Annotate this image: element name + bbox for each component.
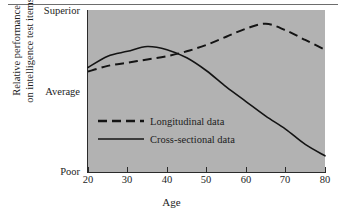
legend-label-longitudinal: Longitudinal data <box>150 116 224 127</box>
solid-line-icon <box>98 134 144 144</box>
curves-svg <box>0 0 343 221</box>
legend-item-cross-sectional: Cross-sectional data <box>98 130 235 148</box>
legend-item-longitudinal: Longitudinal data <box>98 112 235 130</box>
figure-container: Superior Average Poor 20 30 40 50 60 70 … <box>0 0 343 221</box>
series-line-longitudinal <box>88 24 325 72</box>
legend-label-cross-sectional: Cross-sectional data <box>150 134 235 145</box>
dashed-line-icon <box>98 116 144 126</box>
chart-legend: Longitudinal data Cross-sectional data <box>98 112 235 148</box>
